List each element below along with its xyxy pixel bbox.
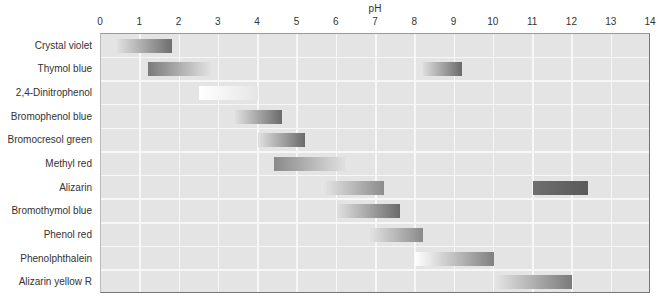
- indicator-label: Thymol blue: [38, 63, 92, 74]
- x-tick-label: 12: [566, 16, 577, 27]
- x-tick-label: 2: [176, 16, 182, 27]
- indicator-label: Methyl red: [45, 158, 92, 169]
- indicator-label: Alizarin yellow R: [19, 276, 92, 287]
- indicator-label: Crystal violet: [35, 39, 92, 50]
- vertical-gridline: [218, 34, 220, 292]
- transition-range-bar: [423, 62, 462, 76]
- indicator-label: 2,4-Dinitrophenol: [16, 87, 92, 98]
- vertical-gridline: [375, 34, 377, 292]
- x-tick-label: 3: [215, 16, 221, 27]
- indicator-label: Phenolphthalein: [20, 252, 92, 263]
- transition-range-bar: [494, 275, 573, 289]
- vertical-gridline: [532, 34, 534, 292]
- x-tick-label: 9: [451, 16, 457, 27]
- x-tick-label: 10: [487, 16, 498, 27]
- x-tick-label: 5: [294, 16, 300, 27]
- transition-range-bar: [533, 181, 588, 195]
- plot-area: [100, 33, 650, 293]
- transition-range-bar: [235, 110, 282, 124]
- transition-range-bar: [117, 39, 172, 53]
- horizontal-gridline: [101, 198, 649, 200]
- x-tick-label: 11: [527, 16, 537, 27]
- transition-range-bar: [148, 62, 211, 76]
- horizontal-gridline: [101, 57, 649, 59]
- transition-range-bar: [321, 181, 384, 195]
- indicator-label: Phenol red: [44, 228, 92, 239]
- x-tick-label: 1: [137, 16, 143, 27]
- x-tick-label: 4: [254, 16, 260, 27]
- x-axis-title: pH: [369, 3, 382, 14]
- transition-range-bar: [368, 228, 423, 242]
- x-tick-label: 14: [644, 16, 655, 27]
- transition-range-bar: [258, 133, 305, 147]
- vertical-gridline: [257, 34, 259, 292]
- transition-range-bar: [199, 86, 258, 100]
- x-tick-label: 13: [605, 16, 616, 27]
- vertical-gridline: [139, 34, 141, 292]
- x-tick-label: 6: [333, 16, 339, 27]
- transition-range-bar: [274, 157, 345, 171]
- transition-range-bar: [337, 204, 400, 218]
- horizontal-gridline: [101, 151, 649, 153]
- indicator-label: Bromothymol blue: [11, 205, 92, 216]
- horizontal-gridline: [101, 222, 649, 224]
- horizontal-gridline: [101, 128, 649, 130]
- horizontal-gridline: [101, 104, 649, 106]
- transition-range-bar: [415, 252, 494, 266]
- indicator-label: Bromocresol green: [8, 134, 92, 145]
- horizontal-gridline: [101, 80, 649, 82]
- x-tick-label: 7: [372, 16, 378, 27]
- x-tick-label: 8: [412, 16, 418, 27]
- indicator-label: Alizarin: [59, 181, 92, 192]
- horizontal-gridline: [101, 269, 649, 271]
- horizontal-gridline: [101, 246, 649, 248]
- vertical-gridline: [571, 34, 573, 292]
- indicator-label: Bromophenol blue: [11, 110, 92, 121]
- horizontal-gridline: [101, 175, 649, 177]
- x-tick-label: 0: [97, 16, 103, 27]
- vertical-gridline: [611, 34, 613, 292]
